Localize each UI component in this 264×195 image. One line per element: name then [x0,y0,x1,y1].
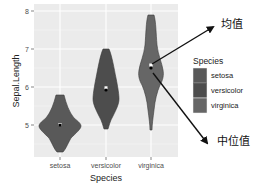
legend-title: Species [193,56,223,66]
legend-key-versicolor [193,83,207,98]
x-axis-ticks [60,157,151,160]
y-axis-labels: 5 6 7 8 [25,8,29,129]
y-tick-6: 6 [25,84,29,91]
x-tick-setosa: setosa [50,162,71,169]
y-axis-ticks [31,11,34,125]
legend-key-setosa [193,68,207,83]
x-tick-virginica: virginica [138,162,164,170]
legend-label-setosa: setosa [211,71,234,80]
median-dot-versicolor [104,88,107,91]
y-tick-7: 7 [25,46,29,53]
y-axis-title: Sepal.Length [11,54,21,107]
y-tick-8: 8 [25,8,29,15]
legend-label-versicolor: versicolor [211,86,244,95]
median-dot-setosa [58,123,61,126]
violin-chart: 5 6 7 8 setosa versicolor virginica Spec… [0,0,264,195]
legend: Species setosa versicolor virginica [193,56,244,113]
legend-key-virginica [193,98,207,113]
median-dot-virginica [149,66,152,69]
x-axis-labels: setosa versicolor virginica [50,162,164,170]
x-axis-title: Species [90,173,123,183]
mean-annotation: 均值 [221,18,243,31]
x-tick-versicolor: versicolor [91,162,122,169]
y-tick-5: 5 [25,122,29,129]
median-annotation: 中位值 [217,134,250,148]
legend-label-virginica: virginica [211,101,239,110]
